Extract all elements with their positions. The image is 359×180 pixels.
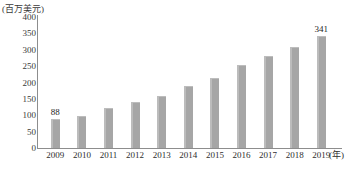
y-tick-50: 50: [2, 127, 36, 136]
x-axis-unit-label: (年): [329, 151, 344, 160]
bar-value-label-2019: 341: [307, 25, 335, 34]
chart-screenshot: (百万美元) 400 350 300 250 200 150 100 50 0 …: [0, 0, 359, 180]
bar-2012: [131, 102, 140, 148]
bar-2011: [104, 108, 113, 148]
y-tick-150: 150: [2, 94, 36, 103]
bar-2018: [290, 47, 299, 148]
bar-highlight: [131, 103, 133, 148]
bar-2015: [210, 78, 219, 148]
y-tick-350: 350: [2, 29, 36, 38]
x-axis-line: [37, 148, 342, 149]
bar-highlight: [210, 79, 212, 148]
bar-highlight: [237, 66, 239, 148]
bar-2016: [237, 65, 246, 148]
bar-2017: [264, 56, 273, 148]
bar-highlight: [264, 57, 266, 148]
bar-2014: [184, 86, 193, 148]
bar-highlight: [317, 37, 319, 148]
y-tick-250: 250: [2, 62, 36, 71]
y-tick-100: 100: [2, 111, 36, 120]
y-tick-300: 300: [2, 45, 36, 54]
bar-highlight: [157, 97, 159, 148]
bar-highlight: [77, 117, 79, 148]
bar-highlight: [184, 87, 186, 148]
bar-2010: [77, 116, 86, 148]
y-tick-400: 400: [2, 13, 36, 22]
y-tick-0: 0: [2, 144, 36, 153]
bar-highlight: [104, 109, 106, 148]
bar-2013: [157, 96, 166, 148]
bar-highlight: [51, 120, 53, 148]
bar-highlight: [290, 48, 292, 148]
bar-2019: [317, 36, 326, 148]
y-tick-200: 200: [2, 78, 36, 87]
y-axis-tick-labels: 400 350 300 250 200 150 100 50 0: [0, 0, 36, 180]
bar-value-label-2009: 88: [41, 108, 69, 117]
bar-2009: [51, 119, 60, 148]
